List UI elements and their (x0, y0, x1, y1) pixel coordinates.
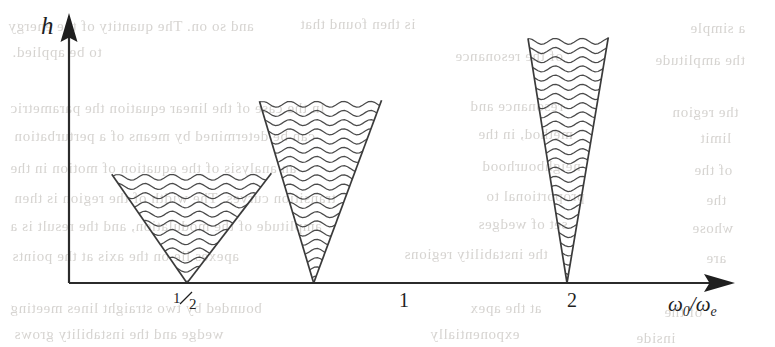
wave-line (514, 195, 622, 201)
wave-line (246, 276, 396, 282)
wave-line (98, 248, 284, 254)
wave-line (514, 222, 622, 228)
wave-line (98, 202, 284, 208)
wave-line (514, 167, 622, 173)
wedge-two-right-boundary (567, 37, 608, 283)
wave-line (246, 111, 396, 117)
wave-line (514, 38, 622, 44)
wave-line (514, 130, 622, 136)
y-axis-label: h (41, 12, 54, 39)
wave-line (514, 213, 622, 219)
wedge-half (98, 173, 284, 283)
wedge-one-left-boundary (259, 101, 313, 283)
wave-line (98, 257, 284, 263)
x-axis-label-omega-e: ω (696, 292, 711, 316)
x-tick-half-denominator: 2 (189, 296, 197, 312)
wave-line (246, 166, 396, 172)
x-tick-label-one: 1 (399, 289, 409, 311)
wedge-one (246, 100, 396, 283)
svg-text:ω0/ωe: ω0/ωe (668, 292, 717, 319)
wave-line (246, 157, 396, 163)
wave-line (246, 184, 396, 190)
wave-line (246, 267, 396, 273)
x-axis-label-sub-0: 0 (683, 304, 690, 319)
wave-line (98, 266, 284, 272)
wave-line (514, 94, 622, 100)
wave-line (514, 140, 622, 146)
wedge-two (514, 37, 622, 283)
wave-line (246, 239, 396, 245)
wedge-two-wavy-fill (514, 38, 622, 283)
x-tick-label-two: 2 (567, 289, 577, 311)
wave-line (98, 239, 284, 245)
wedge-half-right-boundary (187, 173, 271, 283)
wave-line (514, 250, 622, 256)
wave-line (514, 84, 622, 90)
x-axis-label: ω0/ωe (668, 292, 717, 319)
wave-line (246, 193, 396, 199)
wave-line (514, 232, 622, 238)
x-axis-label-sub-e: e (711, 304, 717, 319)
wave-line (514, 112, 622, 118)
wedge-one-right-boundary (314, 100, 382, 283)
wave-line (98, 184, 284, 190)
x-tick-label-half: 1 2 (173, 290, 197, 312)
wave-line (514, 158, 622, 164)
wedge-half-left-boundary (112, 174, 187, 283)
wave-line (246, 249, 396, 255)
wave-line (514, 149, 622, 155)
wave-line (246, 203, 396, 209)
wave-line (246, 138, 396, 144)
wave-line (514, 75, 622, 81)
axes-group (61, 13, 736, 292)
wedge-half-wavy-fill (98, 174, 284, 281)
wave-line (246, 221, 396, 227)
wave-line (98, 220, 284, 226)
wave-line (246, 147, 396, 153)
wave-line (514, 121, 622, 127)
wave-line (514, 204, 622, 210)
wave-line (514, 259, 622, 265)
wedge-group (98, 37, 622, 283)
wave-line (514, 176, 622, 182)
wave-line (246, 212, 396, 218)
wave-line (246, 230, 396, 236)
x-tick-half-numerator: 1 (173, 290, 181, 306)
wave-line (98, 174, 284, 180)
wave-line (98, 230, 284, 236)
x-tick-label-group: 1 2 1 2 (173, 289, 577, 312)
wave-line (514, 66, 622, 72)
wave-line (514, 241, 622, 247)
wave-line (246, 101, 396, 107)
x-axis-label-omega0: ω (668, 292, 683, 316)
wave-line (98, 211, 284, 217)
wave-line (514, 186, 622, 192)
wave-line (514, 103, 622, 109)
